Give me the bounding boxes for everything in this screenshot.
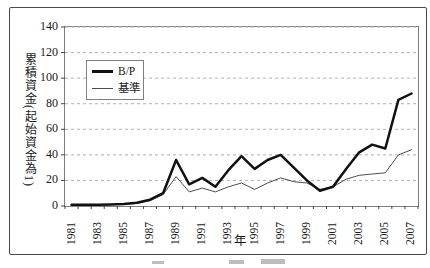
legend-line-bp-icon — [92, 70, 113, 73]
legend-row: B/P — [92, 65, 138, 78]
legend: B/P 基準 — [86, 60, 144, 100]
series-line-B/P — [72, 94, 412, 205]
chart-figure: 累積資金(起始資金為1) B/P 基準 020406080100120140 1… — [0, 0, 430, 268]
plot-svg — [65, 27, 418, 206]
legend-label-benchmark: 基準 — [118, 82, 140, 95]
caption-fragment — [152, 261, 164, 264]
y-tick-label: 0 — [10, 198, 58, 212]
plot-area: B/P 基準 — [64, 26, 419, 207]
caption-fragment — [261, 259, 285, 264]
figure-frame: 累積資金(起始資金為1) B/P 基準 020406080100120140 1… — [9, 7, 427, 255]
legend-row: 基準 — [92, 82, 138, 95]
y-tick-label: 140 — [10, 19, 58, 33]
series-line-基準 — [72, 150, 412, 205]
y-axis-title: 累積資金(起始資金為1) — [21, 42, 38, 198]
legend-label-bp: B/P — [118, 65, 135, 78]
caption-fragment — [229, 260, 244, 264]
x-axis-title: 年 — [64, 230, 417, 249]
legend-line-benchmark-icon — [92, 88, 113, 89]
